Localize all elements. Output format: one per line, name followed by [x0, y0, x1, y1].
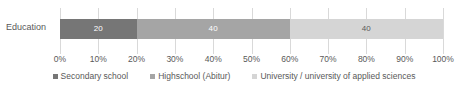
x-axis-label-90%: 90%	[396, 55, 413, 64]
x-axis-label-40%: 40%	[205, 55, 222, 64]
legend-item-2[interactable]: Highschool (Abitur)	[150, 72, 230, 81]
x-axis-label-0%: 0%	[54, 55, 66, 64]
legend-label-2: Highschool (Abitur)	[158, 72, 230, 81]
legend-item-1[interactable]: Secondary school	[53, 72, 129, 81]
x-axis-label-80%: 80%	[358, 55, 375, 64]
bar-segment-3: 40	[290, 19, 443, 39]
legend-swatch-highschool	[150, 74, 155, 79]
gridline-100%	[443, 8, 444, 50]
x-axis-label-70%: 70%	[320, 55, 337, 64]
chart-legend: Secondary schoolHighschool (Abitur)Unive…	[0, 72, 468, 81]
x-axis-label-20%: 20%	[128, 55, 145, 64]
legend-swatch-university	[252, 74, 257, 79]
legend-swatch-secondary-school	[53, 74, 58, 79]
legend-label-3: University / university of applied scien…	[260, 72, 415, 81]
x-axis-label-60%: 60%	[281, 55, 298, 64]
legend-item-3[interactable]: University / university of applied scien…	[252, 72, 415, 81]
category-label-education: Education	[6, 23, 56, 32]
x-axis-label-10%: 10%	[90, 55, 107, 64]
bar-segment-2: 40	[137, 19, 290, 39]
bar-segment-1: 20	[60, 19, 137, 39]
legend-label-1: Secondary school	[61, 72, 129, 81]
x-axis-label-30%: 30%	[166, 55, 183, 64]
x-axis-label-100%: 100%	[432, 55, 454, 64]
stacked-bar-chart: Education 204040 0%10%20%30%40%50%60%70%…	[0, 0, 468, 93]
bar-education: 204040	[60, 19, 443, 39]
x-axis-label-50%: 50%	[243, 55, 260, 64]
x-axis-labels: 0%10%20%30%40%50%60%70%80%90%100%	[60, 55, 443, 67]
